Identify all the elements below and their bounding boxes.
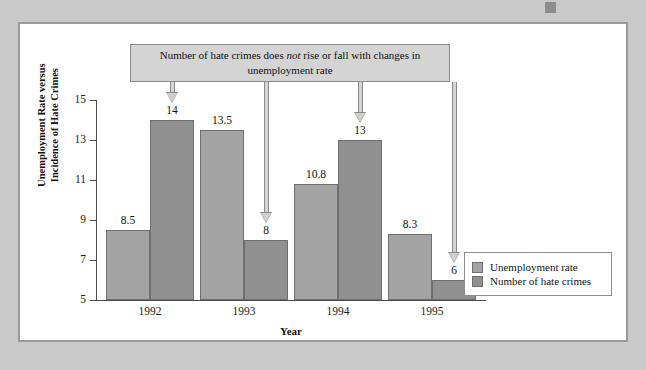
y-tick-label: 9 xyxy=(62,214,86,226)
bar-value-label: 13.5 xyxy=(199,115,245,127)
legend-swatch xyxy=(472,262,483,273)
bar-value-label: 14 xyxy=(149,105,195,117)
legend-item: Number of hate crimes xyxy=(472,275,604,287)
y-tick-mark xyxy=(90,260,97,261)
y-tick-label: 7 xyxy=(62,254,86,266)
arrow-shaft xyxy=(358,82,363,112)
y-tick-label: 13 xyxy=(62,134,86,146)
bar-value-label: 8 xyxy=(243,225,289,237)
annotation-arrow xyxy=(260,82,273,223)
plot-area: Number of hate crimes does not rise or f… xyxy=(20,24,626,340)
legend: Unemployment rateNumber of hate crimes xyxy=(464,252,612,296)
y-tick-mark xyxy=(90,220,97,221)
arrow-shaft xyxy=(452,82,457,252)
arrow-shaft xyxy=(170,82,175,92)
bar xyxy=(338,140,382,300)
bar-value-label: 8.3 xyxy=(387,219,433,231)
arrow-head xyxy=(166,93,176,102)
y-axis-title-line1: Unemployment Rate versus xyxy=(35,37,48,213)
arrow-head xyxy=(354,113,364,122)
bar xyxy=(106,230,150,300)
annotation-arrow xyxy=(354,82,367,123)
bar xyxy=(244,240,288,300)
y-tick-label: 5 xyxy=(62,294,86,306)
arrow-head xyxy=(448,253,458,262)
y-tick-mark xyxy=(90,180,97,181)
annotation-callout: Number of hate crimes does not rise or f… xyxy=(130,44,450,82)
bar-value-label: 10.8 xyxy=(293,169,339,181)
x-tick-label: 1995 xyxy=(397,305,467,317)
bar-value-label: 13 xyxy=(337,125,383,137)
callout-prefix: Number of hate crimes does xyxy=(160,49,287,61)
bar xyxy=(150,120,194,300)
y-tick-mark xyxy=(90,140,97,141)
x-tick-label: 1993 xyxy=(209,305,279,317)
corner-marker-square xyxy=(545,2,556,13)
annotation-callout-text: Number of hate crimes does not rise or f… xyxy=(131,48,449,78)
bar xyxy=(294,184,338,300)
legend-swatch xyxy=(472,276,483,287)
y-axis-title-line2: Incidence of Hate Crimes xyxy=(48,37,61,213)
x-axis-line xyxy=(96,300,486,301)
figure-frame: Number of hate crimes does not rise or f… xyxy=(18,22,628,342)
y-tick-label: 11 xyxy=(62,174,86,186)
y-tick-mark xyxy=(90,100,97,101)
bar xyxy=(200,130,244,300)
legend-item: Unemployment rate xyxy=(472,261,604,273)
bar-value-label: 8.5 xyxy=(105,215,151,227)
legend-label: Unemployment rate xyxy=(490,261,578,273)
bar xyxy=(388,234,432,300)
arrow-shaft xyxy=(264,82,269,212)
y-axis-line xyxy=(96,100,97,300)
callout-emphasis: not xyxy=(286,49,300,61)
y-axis-title: Unemployment Rate versus Incidence of Ha… xyxy=(35,37,61,213)
x-tick-label: 1994 xyxy=(303,305,373,317)
x-tick-label: 1992 xyxy=(115,305,185,317)
arrow-head xyxy=(260,213,270,222)
y-tick-label: 15 xyxy=(62,94,86,106)
annotation-arrow xyxy=(448,82,461,263)
x-axis-title: Year xyxy=(96,325,486,337)
annotation-arrow xyxy=(166,82,179,103)
legend-label: Number of hate crimes xyxy=(490,275,591,287)
